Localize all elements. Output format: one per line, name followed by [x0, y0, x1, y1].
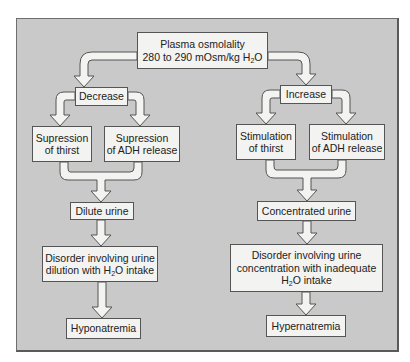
arrow-dilute-to-disorder [91, 220, 111, 246]
hyponatremia-label: Hyponatremia [71, 322, 136, 335]
arrow-increase-to-adh [332, 90, 356, 124]
concentration-disorder-line3-text: H [281, 274, 289, 286]
stimulation-adh-line1: Stimulation [321, 130, 373, 143]
decrease-box: Decrease [75, 87, 128, 106]
hypernatremia-label: Hypernatremia [272, 320, 341, 333]
dilute-urine-box: Dilute urine [70, 202, 134, 220]
plasma-osmolality-box: Plasma osmolality 280 to 290 mOsm/kg H2O [137, 32, 268, 69]
arrow-root-to-increase [268, 52, 316, 85]
concentration-disorder-line3: H2O intake [281, 274, 332, 287]
supression-adh-line1: Supression [116, 132, 169, 145]
hypernatremia-box: Hypernatremia [266, 315, 346, 337]
increase-label: Increase [286, 88, 326, 101]
increase-box: Increase [280, 85, 332, 104]
dilution-disorder-line2: dilution with H2O intake [46, 264, 154, 277]
arrow-increase-to-thirst [256, 90, 280, 124]
arrow-disorder-to-hypernatremia [296, 292, 316, 315]
arrow-concentrated-to-disorder [297, 221, 317, 244]
concentration-disorder-box: Disorder involving urine concentration w… [230, 244, 383, 292]
supression-adh-box: Supression of ADH release [104, 126, 180, 162]
supression-thirst-line1: Supression [36, 132, 89, 145]
root-line2-suffix: O [254, 51, 262, 63]
stimulation-thirst-line2: of thirst [249, 142, 283, 155]
root-line2-text: 280 to 290 mOsm/kg H [142, 51, 250, 63]
concentration-disorder-line1: Disorder involving urine [252, 249, 362, 262]
arrow-right-merge-to-urine [266, 160, 346, 201]
concentrated-urine-label: Concentrated urine [262, 205, 351, 218]
concentration-disorder-line3-suffix: O intake [293, 274, 332, 286]
root-line1: Plasma osmolality [160, 38, 245, 51]
arrow-root-to-decrease [74, 52, 137, 87]
arrow-disorder-to-hyponatremia [92, 282, 112, 318]
dilution-disorder-line1: Disorder involving urine [45, 252, 155, 265]
supression-thirst-box: Supression of thirst [32, 126, 92, 162]
supression-adh-line2: of ADH release [107, 144, 178, 157]
root-line2: 280 to 290 mOsm/kg H2O [142, 51, 262, 64]
arrow-left-merge-to-urine [60, 162, 142, 202]
arrow-decrease-to-adh [128, 92, 150, 126]
decrease-label: Decrease [79, 90, 124, 103]
hyponatremia-box: Hyponatremia [66, 318, 141, 339]
supression-thirst-line2: of thirst [45, 144, 79, 157]
arrow-decrease-to-thirst [50, 92, 75, 126]
dilution-disorder-line2-suffix: O intake [115, 264, 154, 276]
dilution-disorder-box: Disorder involving urine dilution with H… [42, 246, 158, 282]
concentration-disorder-line2: concentration with inadequate [237, 262, 377, 275]
stimulation-thirst-box: Stimulation of thirst [236, 124, 296, 160]
concentrated-urine-box: Concentrated urine [257, 201, 356, 221]
dilution-disorder-line2-text: dilution with H [46, 264, 111, 276]
stimulation-adh-line2: of ADH release [312, 142, 383, 155]
stimulation-thirst-line1: Stimulation [240, 130, 292, 143]
dilute-urine-label: Dilute urine [75, 205, 128, 218]
stimulation-adh-box: Stimulation of ADH release [309, 124, 385, 160]
